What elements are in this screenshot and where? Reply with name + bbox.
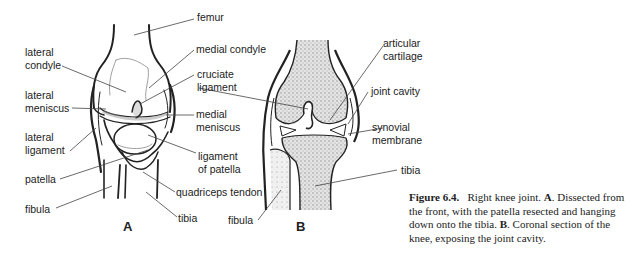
label-articular-cartilage: articular cartilage bbox=[383, 37, 423, 62]
figure-caption: Figure 6.4. Right knee joint. A. Dissect… bbox=[409, 191, 631, 245]
label-ligament-of-patella: ligament of patella bbox=[198, 150, 241, 175]
label-cruciate-ligament: cruciate ligament bbox=[197, 68, 237, 93]
panel-b-drawing bbox=[263, 40, 359, 210]
label-medial-meniscus: medial meniscus bbox=[196, 108, 240, 133]
label-quadriceps-tendon: quadriceps tendon bbox=[176, 186, 262, 199]
panel-letter-a: A bbox=[123, 219, 132, 234]
label-lateral-ligament: lateral ligament bbox=[25, 131, 65, 156]
label-tibia-b: tibia bbox=[401, 164, 420, 177]
panel-a-drawing bbox=[91, 25, 174, 198]
label-patella: patella bbox=[25, 173, 56, 186]
figure-number: Figure 6.4. bbox=[409, 191, 459, 203]
caption-a-letter: A bbox=[544, 191, 552, 203]
label-lateral-meniscus: lateral meniscus bbox=[25, 89, 69, 114]
panel-letter-b: B bbox=[296, 219, 305, 234]
label-fibula-b: fibula bbox=[228, 214, 253, 227]
caption-b-letter: B bbox=[500, 218, 507, 230]
label-medial-condyle: medial condyle bbox=[196, 43, 266, 56]
caption-title: Right knee joint. bbox=[467, 191, 541, 203]
label-synovial-membrane: synovial membrane bbox=[372, 121, 422, 146]
label-lateral-condyle: lateral condyle bbox=[25, 46, 61, 71]
label-femur: femur bbox=[197, 11, 224, 24]
knee-joint-figure: femur lateral condyle medial condyle cru… bbox=[0, 0, 632, 268]
label-fibula-a: fibula bbox=[25, 203, 50, 216]
label-tibia-a: tibia bbox=[178, 212, 197, 225]
label-joint-cavity: joint cavity bbox=[371, 85, 420, 98]
